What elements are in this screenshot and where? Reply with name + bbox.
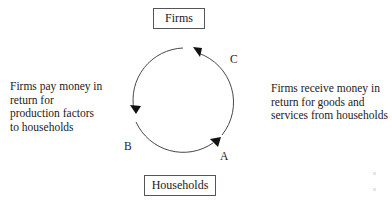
households-node: Households xyxy=(144,175,216,196)
right-annotation-line: return for goods and xyxy=(271,96,392,110)
scan-artifact xyxy=(373,188,376,191)
arrowhead-b-icon xyxy=(130,105,141,114)
left-annotation-line: return for xyxy=(10,94,125,108)
arrow-label-c: C xyxy=(230,53,238,65)
arrow-label-b: B xyxy=(124,140,132,152)
left-annotation-line: Firms pay money in xyxy=(10,80,125,94)
left-annotation: Firms pay money in return for production… xyxy=(10,80,125,134)
right-annotation: Firms receive money in return for goods … xyxy=(271,82,392,123)
arc-bottom xyxy=(136,122,213,152)
arc-left-top xyxy=(133,48,183,110)
arrowhead-a-icon xyxy=(210,137,221,147)
right-annotation-line: services from households xyxy=(271,109,392,123)
left-annotation-line: to households xyxy=(10,121,125,135)
scan-artifact xyxy=(373,172,376,175)
left-annotation-line: production factors xyxy=(10,107,125,121)
right-annotation-line: Firms receive money in xyxy=(271,82,392,96)
arrowhead-c-icon xyxy=(193,47,202,57)
arc-right xyxy=(198,53,234,135)
arrow-label-a: A xyxy=(220,150,228,162)
firms-node: Firms xyxy=(153,8,205,29)
